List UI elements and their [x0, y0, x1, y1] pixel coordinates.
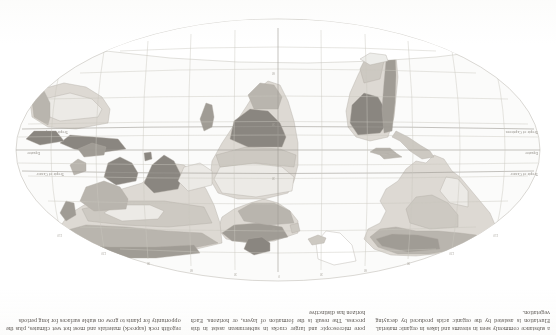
label-tropic-of-capricorn-left: Tropic of Capricorn	[506, 130, 538, 134]
world-soil-map: Tropic of Cancer Equator Tropic of Capri…	[0, 0, 556, 289]
lon-tick-9: 120	[101, 251, 106, 255]
lat-tick-30s: 30	[271, 122, 275, 126]
lon-tick-5: 0	[278, 274, 280, 278]
lon-tick-3: 60	[363, 268, 367, 272]
land-british-isles	[290, 223, 300, 233]
body-text-columns: a substance commonly seen in streams and…	[0, 287, 556, 335]
label-tropic-of-cancer-left: Tropic of Cancer	[510, 172, 538, 176]
lon-tick-4: 30	[319, 272, 323, 276]
text-column-middle: pore microscopic and larger cracks in su…	[191, 287, 366, 333]
lon-tick-10: 150	[57, 233, 62, 237]
lon-tick-8: 90	[146, 261, 150, 265]
lon-tick-7: 60	[189, 268, 193, 272]
text-column-right: regolith rock (saprock) materials and mo…	[6, 287, 181, 333]
lon-tick-0: 150	[493, 233, 498, 237]
text-column-left-body: a substance commonly seen in streams and…	[375, 308, 550, 333]
world-map-svg: Tropic of Cancer Equator Tropic of Capri…	[0, 0, 556, 289]
lat-tick-60s: 60	[271, 71, 275, 75]
lon-tick-1: 120	[449, 251, 454, 255]
scanned-page: a substance commonly seen in streams and…	[0, 0, 556, 335]
text-column-right-body: regolith rock (saprock) materials and mo…	[6, 317, 181, 333]
lat-tick-30n: 30	[271, 176, 275, 180]
label-tropic-of-capricorn-right: Tropic of Capricorn	[36, 130, 68, 134]
text-column-middle-body: pore microscopic and larger cracks in su…	[191, 308, 366, 333]
text-column-left: a substance commonly seen in streams and…	[375, 287, 550, 333]
lat-tick-60n: 60	[271, 227, 275, 231]
label-equator-left: Equator	[525, 151, 538, 155]
lon-tick-2: 90	[406, 261, 410, 265]
lon-tick-6: 30	[233, 272, 237, 276]
land-sahara-aridisol	[214, 163, 294, 197]
label-tropic-of-cancer-right: Tropic of Cancer	[36, 172, 64, 176]
land-new-zealand	[8, 79, 24, 99]
label-equator-right: Equator	[27, 151, 40, 155]
